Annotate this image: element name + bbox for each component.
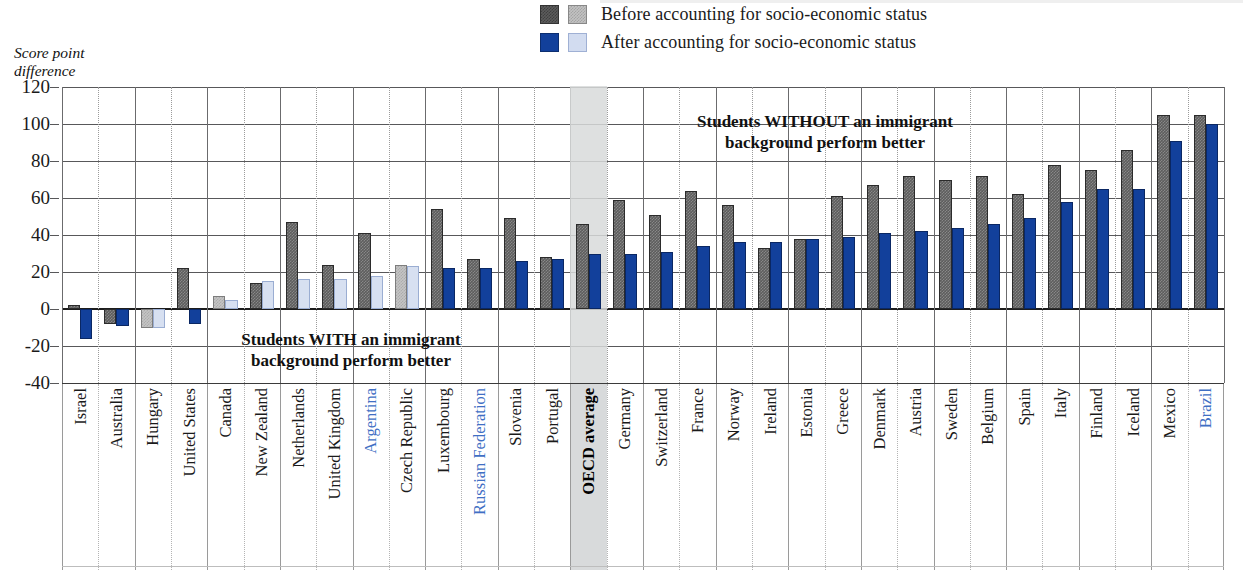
y-tick-mark (50, 235, 59, 236)
bar-before (395, 265, 407, 309)
category-label-text: Russian Federation (470, 388, 490, 515)
y-tick-mark (50, 272, 59, 273)
bar-after (806, 239, 818, 309)
bar-after (334, 279, 346, 309)
category-label-text: France (688, 388, 708, 433)
bar-group (1079, 87, 1115, 383)
category-label-cell: Sweden (934, 384, 970, 570)
bar-after (371, 276, 383, 309)
bar-before (794, 239, 806, 309)
category-label-text: Germany (615, 388, 635, 449)
category-label-cell: Denmark (861, 384, 897, 570)
category-label-cell: Norway (716, 384, 752, 570)
bar-before (322, 265, 334, 309)
category-axis-end-rule (1223, 384, 1224, 570)
category-label-cell: Ireland (752, 384, 788, 570)
y-tick-label-60: 60 (31, 187, 50, 209)
bar-group (1188, 87, 1224, 383)
category-label-text: Iceland (1124, 388, 1144, 437)
category-label-text: Denmark (870, 388, 890, 449)
bar-before (976, 176, 988, 309)
bar-after (298, 279, 310, 309)
category-label-text: Italy (1051, 388, 1071, 418)
category-label-text: Austria (906, 388, 926, 437)
legend-swatch-before-light (568, 5, 587, 24)
category-separator (1224, 87, 1225, 383)
bar-before (467, 259, 479, 309)
category-label-text: Canada (216, 388, 236, 437)
bar-before (576, 224, 588, 309)
category-label-text: Norway (724, 388, 744, 441)
category-label-text: Netherlands (289, 388, 309, 468)
category-label-text: Switzerland (652, 388, 672, 467)
bar-before (613, 200, 625, 309)
category-label-cell: Czech Republic (389, 384, 425, 570)
bar-after (1170, 141, 1182, 309)
category-label-cell: Argentina (353, 384, 389, 570)
annotation-without-immigrant: Students WITHOUT an immigrant background… (640, 112, 1010, 153)
bar-before (104, 309, 116, 324)
bar-group (1006, 87, 1042, 383)
category-label-text: Israel (71, 388, 91, 425)
category-label-text: Belgium (978, 388, 998, 445)
bar-after (480, 268, 492, 309)
y-tick-label-40: 40 (31, 224, 50, 246)
category-label-cell: Germany (607, 384, 643, 570)
category-axis-labels: IsraelAustraliaHungaryUnited StatesCanad… (62, 384, 1224, 570)
y-tick-label-100: 100 (22, 113, 51, 135)
category-label-text: Estonia (797, 388, 817, 438)
bar-after (952, 228, 964, 309)
category-label-cell: United States (171, 384, 207, 570)
bar-after (1133, 189, 1145, 309)
category-label-cell: Greece (825, 384, 861, 570)
category-label-cell: Russian Federation (461, 384, 497, 570)
bar-before (758, 248, 770, 309)
bar-after (770, 242, 782, 309)
bar-group (607, 87, 643, 383)
legend-label-before: Before accounting for socio-economic sta… (601, 4, 927, 25)
category-label-cell: France (679, 384, 715, 570)
y-tick-mark (50, 309, 59, 310)
bar-after (879, 233, 891, 309)
bar-group (1042, 87, 1078, 383)
y-tick-label-0: 0 (41, 298, 51, 320)
y-tick-mark (50, 346, 59, 347)
bar-before (649, 215, 661, 309)
bar-after (843, 237, 855, 309)
bar-before (903, 176, 915, 309)
bar-after (1061, 202, 1073, 309)
category-label-text: Ireland (761, 388, 781, 435)
bar-group (1151, 87, 1187, 383)
bar-after (988, 224, 1000, 309)
page-top-edge (600, 0, 1243, 3)
category-label-text: Mexico (1160, 388, 1180, 438)
legend-swatch-after-light (568, 33, 587, 52)
category-label-text: OECD average (579, 388, 599, 495)
bar-after (516, 261, 528, 309)
bar-after (407, 266, 419, 309)
category-label-cell: Slovenia (498, 384, 534, 570)
category-label-text: Australia (107, 388, 127, 448)
y-tick-label-80: 80 (31, 150, 50, 172)
bar-before (177, 268, 189, 309)
category-label-cell: Canada (207, 384, 243, 570)
bar-before (431, 209, 443, 309)
bar-before (286, 222, 298, 309)
bar-before (939, 180, 951, 310)
bar-before (358, 233, 370, 309)
category-label-text: Spain (1015, 388, 1035, 426)
y-tick-label-20: 20 (31, 261, 50, 283)
bar-before (1121, 150, 1133, 309)
y-tick-mark (50, 198, 59, 199)
category-label-cell: Spain (1006, 384, 1042, 570)
bar-after (625, 254, 637, 310)
category-label-text: United States (180, 388, 200, 476)
category-label-cell: United Kingdom (316, 384, 352, 570)
bar-before (1012, 194, 1024, 309)
category-label-text: Hungary (143, 388, 163, 446)
legend-label-after: After accounting for socio-economic stat… (601, 32, 916, 53)
bar-before (68, 305, 80, 309)
bar-before (141, 309, 153, 328)
bar-after (262, 281, 274, 309)
bar-group (98, 87, 134, 383)
